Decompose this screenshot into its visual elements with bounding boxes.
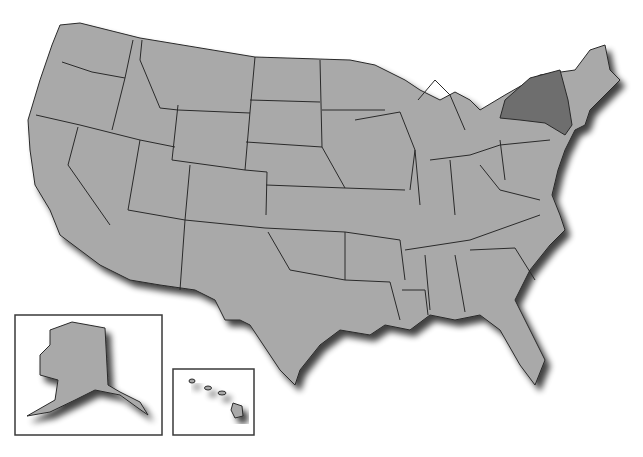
us-map — [0, 0, 643, 457]
island-oahu — [205, 386, 212, 390]
hawaii-inset-frame — [173, 369, 254, 435]
island-maui — [218, 391, 226, 395]
island-kauai — [189, 379, 195, 383]
